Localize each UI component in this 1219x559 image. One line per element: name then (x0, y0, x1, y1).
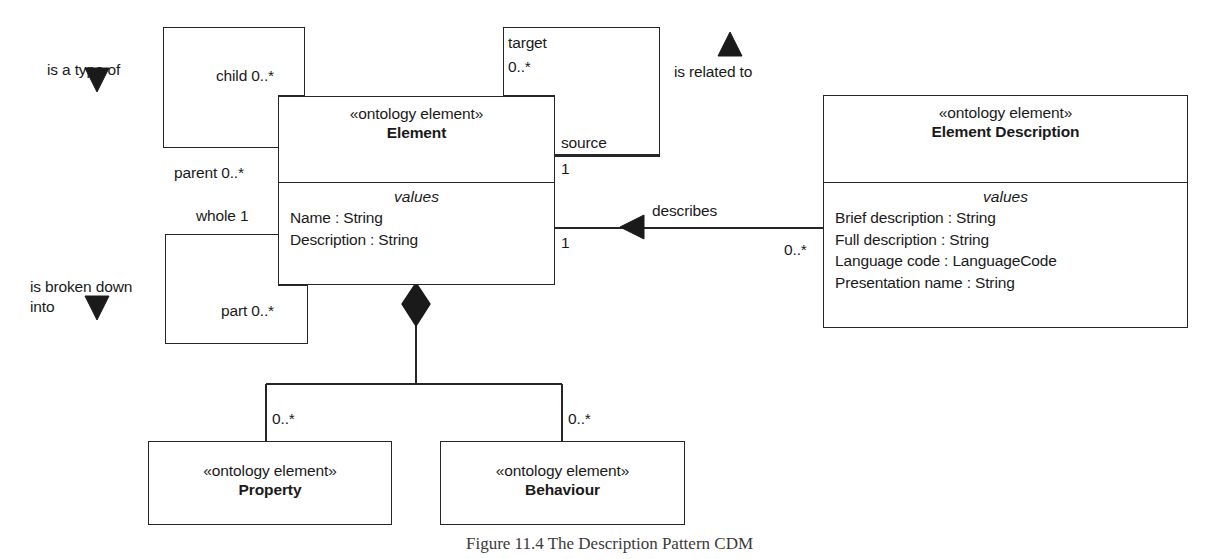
class-element-description-attribute: Presentation name : String (824, 272, 1187, 294)
class-property-stereotype: «ontology element» (155, 461, 385, 480)
class-element-compartment-label: values (279, 186, 554, 207)
describes-multiplicity-description: 0..* (784, 240, 807, 260)
label-describes: describes (652, 201, 717, 221)
role-source-multiplicity: 1 (561, 159, 569, 179)
class-element[interactable]: «ontology element» Element values Name :… (278, 96, 555, 285)
role-part: part 0..* (221, 301, 274, 321)
class-behaviour[interactable]: «ontology element» Behaviour (440, 441, 685, 525)
role-child: child 0..* (216, 66, 274, 86)
role-whole: whole 1 (196, 206, 248, 226)
role-target: target (508, 33, 547, 53)
class-element-attribute: Name : String (279, 207, 554, 229)
class-element-description-attribute: Brief description : String (824, 207, 1187, 229)
label-is-related-to: is related to (674, 62, 752, 82)
triangle-is-related-to (718, 32, 742, 56)
triangle-is-broken-down-into (85, 296, 109, 320)
class-element-description-name: Element Description (830, 122, 1181, 142)
class-element-description-header: «ontology element» Element Description (824, 96, 1187, 183)
class-property-name: Property (155, 480, 385, 500)
class-element-attribute: Description : String (279, 229, 554, 251)
role-parent: parent 0..* (174, 163, 244, 183)
class-element-description-values-compartment: values Brief description : String Full d… (824, 183, 1187, 297)
class-element-name: Element (285, 123, 548, 143)
class-behaviour-stereotype: «ontology element» (447, 461, 678, 480)
describes-multiplicity-element: 1 (561, 233, 569, 253)
class-behaviour-header: «ontology element» Behaviour (441, 442, 684, 508)
class-element-description-attribute: Language code : LanguageCode (824, 250, 1187, 272)
composition-diamond (402, 283, 430, 326)
class-element-description-stereotype: «ontology element» (830, 103, 1181, 122)
class-element-description-compartment-label: values (824, 186, 1187, 207)
triangle-describes (620, 215, 644, 239)
class-element-stereotype: «ontology element» (285, 104, 548, 123)
class-element-header: «ontology element» Element (279, 97, 554, 183)
class-property-header: «ontology element» Property (149, 442, 391, 508)
label-is-broken-down-into-line2: into (30, 297, 54, 317)
label-is-broken-down-into-line1: is broken down (30, 277, 132, 297)
aggregation-multiplicity-property: 0..* (272, 409, 295, 429)
class-behaviour-name: Behaviour (447, 480, 678, 500)
label-is-a-type-of: is a type of (47, 60, 120, 80)
role-target-multiplicity: 0..* (508, 57, 531, 77)
class-element-values-compartment: values Name : String Description : Strin… (279, 183, 554, 254)
aggregation-multiplicity-behaviour: 0..* (568, 409, 591, 429)
figure-caption: Figure 11.4 The Description Pattern CDM (0, 534, 1219, 554)
class-property[interactable]: «ontology element» Property (148, 441, 392, 525)
class-element-description-attribute: Full description : String (824, 229, 1187, 251)
role-source: source (561, 133, 607, 153)
class-element-description[interactable]: «ontology element» Element Description v… (823, 95, 1188, 328)
uml-class-diagram: «ontology element» Element values Name :… (0, 0, 1219, 559)
